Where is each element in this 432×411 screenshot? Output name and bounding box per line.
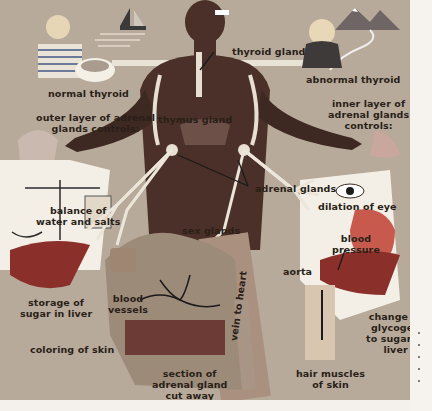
label-inner-layer-line3: controls:	[328, 120, 409, 131]
label-thymus-gland: thymus gland	[158, 114, 232, 125]
label-inner-layer-line2: adrenal glands	[328, 109, 409, 120]
label-outer-layer-line1: outer layer of adrenal	[36, 112, 155, 123]
label-blood-vessels: blood vessels	[108, 293, 148, 315]
label-thyroid-gland: thyroid gland	[232, 46, 305, 57]
label-storage-sugar: storage of sugar in liver	[20, 297, 92, 319]
label-sex-glands: sex glands	[182, 225, 240, 236]
label-coloring-of-skin: coloring of skin	[30, 344, 114, 355]
label-hair-muscles-line1: hair muscles	[296, 368, 365, 379]
body-illustration	[0, 0, 410, 400]
label-section-line3: cut away	[152, 390, 227, 400]
sailboat-icon	[120, 8, 146, 30]
fish-plate-icon	[75, 58, 115, 82]
label-section-line2: adrenal gland	[152, 379, 227, 390]
label-section-adrenal: section of adrenal gland cut away	[152, 368, 227, 400]
label-glycogen-line3: to sugar in	[366, 333, 410, 344]
label-aorta: aorta	[283, 266, 312, 277]
label-balance: balance of water and salts	[36, 205, 120, 227]
label-blood-pressure-line1: blood	[332, 233, 380, 244]
fist-icon	[110, 248, 136, 272]
label-balance-line1: balance of	[36, 205, 120, 216]
label-hair-muscles-line2: of skin	[296, 379, 365, 390]
label-storage-line1: storage of	[20, 297, 92, 308]
outer-adrenal-tissue	[18, 130, 58, 162]
liver-left-icon	[10, 241, 90, 288]
label-glycogen-line4: liver	[366, 344, 410, 355]
label-storage-line2: sugar in liver	[20, 308, 92, 319]
label-blood-vessels-line1: blood	[108, 293, 148, 304]
label-balance-line2: water and salts	[36, 216, 120, 227]
label-glycogen-line1: change of	[366, 311, 410, 322]
label-section-line1: section of	[152, 368, 227, 379]
label-abnormal-thyroid: abnormal thyroid	[306, 74, 400, 85]
label-blood-vessels-line2: vessels	[108, 304, 148, 315]
label-glycogen-line2: glycogen	[366, 322, 410, 333]
label-inner-layer-line1: inner layer of	[328, 98, 409, 109]
illustration-plate: normal thyroid thyroid gland abnormal th…	[0, 0, 410, 400]
label-blood-pressure-line2: pressure	[332, 244, 380, 255]
label-hair-muscles: hair muscles of skin	[296, 368, 365, 390]
inner-adrenal-tissue	[370, 130, 400, 158]
label-outer-layer-line2: glands controls:	[36, 123, 155, 134]
illustration-page: normal thyroid thyroid gland abnormal th…	[0, 0, 432, 411]
label-adrenal-glands: adrenal glands	[255, 183, 336, 194]
page-margin	[410, 0, 432, 411]
waves-icon	[95, 34, 145, 46]
label-blood-pressure: blood pressure	[332, 233, 380, 255]
abnormal-boy-figure	[302, 19, 342, 68]
label-dilation-of-eye: dilation of eye	[318, 201, 397, 212]
label-glycogen: change of glycogen to sugar in liver	[366, 311, 410, 355]
label-normal-thyroid: normal thyroid	[48, 88, 129, 99]
label-inner-layer: inner layer of adrenal glands controls:	[328, 98, 409, 131]
label-outer-layer: outer layer of adrenal glands controls:	[36, 112, 155, 134]
skin-block-icon	[305, 285, 335, 360]
